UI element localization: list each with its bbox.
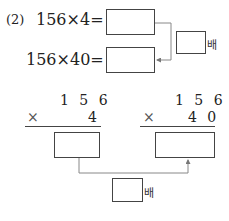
equation-1-expression: 156×4= [36, 12, 104, 28]
vertical-1-divider [25, 126, 101, 127]
equation-1-answer-box[interactable] [106, 9, 155, 35]
equation-2-answer-box[interactable] [106, 47, 155, 73]
equation-2-expression: 156×40= [26, 52, 104, 68]
vertical-1-operator: × [27, 110, 39, 124]
vertical-2-multiplier: 4 0 [188, 110, 219, 124]
vertical-2-multiplicand: 1 5 6 [175, 93, 226, 107]
vertical-1-answer-box[interactable] [54, 132, 100, 158]
ratio-answer-box[interactable] [176, 31, 206, 54]
bottom-ratio-answer-box[interactable] [112, 178, 143, 202]
vertical-2-answer-box[interactable] [155, 132, 215, 158]
vertical-1-multiplier: 4 [88, 110, 100, 124]
vertical-1-multiplicand: 1 5 6 [60, 93, 111, 107]
bottom-ratio-unit-label: 배 [144, 184, 154, 200]
ratio-unit-label: 배 [207, 36, 217, 52]
vertical-2-operator: × [143, 110, 155, 124]
problem-number: (2) [6, 13, 24, 26]
vertical-2-divider [140, 126, 215, 127]
